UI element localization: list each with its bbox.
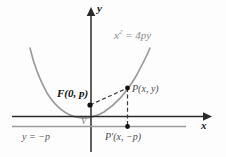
- equation-rest: = 4py: [122, 29, 151, 41]
- focus-label: F(0, p): [57, 88, 88, 99]
- vertex-label: V: [81, 117, 87, 126]
- foot-point-label: P'(x, −p): [105, 132, 141, 142]
- focus-point-dot: [87, 102, 92, 107]
- foot-point-dot: [125, 124, 130, 129]
- parabola-figure: x2 = 4py y x F(0, p) P(x, y) V y = −p P'…: [0, 0, 226, 157]
- x-axis-label: x: [201, 120, 207, 131]
- curve-point-dot: [125, 86, 130, 91]
- curve-point-label: P(x, y): [132, 84, 159, 94]
- y-axis-label: y: [97, 3, 102, 14]
- parabola-equation-label: x2 = 4py: [114, 29, 151, 41]
- directrix-label: y = −p: [22, 132, 50, 142]
- y-axis-arrowhead: [87, 7, 96, 16]
